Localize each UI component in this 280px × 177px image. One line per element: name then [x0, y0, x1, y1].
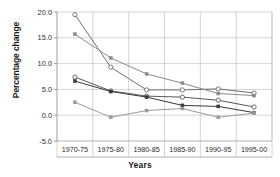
data-point-marker	[253, 94, 256, 97]
y-tick-label: 15.0	[38, 33, 52, 42]
data-point-marker	[109, 65, 113, 69]
data-point-marker	[73, 75, 77, 79]
data-point-marker	[181, 104, 184, 107]
axis-frame	[57, 12, 272, 157]
y-axis-ticks: 20.015.010.05.00.0-5.0	[38, 8, 57, 146]
y-tick-label: 20.0	[38, 8, 52, 17]
y-tick-label: 0.0	[42, 111, 52, 120]
data-point-marker	[73, 33, 76, 36]
y-tick-label: -5.0	[39, 137, 52, 146]
x-tick-label: 1985-90	[169, 145, 195, 154]
data-point-marker	[252, 105, 256, 109]
data-point-marker	[73, 12, 77, 16]
data-point-marker	[217, 116, 220, 119]
y-tick-label: 5.0	[42, 85, 52, 94]
data-point-marker	[109, 56, 112, 59]
x-tick-label: 1970-75	[62, 145, 88, 154]
data-point-marker	[216, 87, 220, 91]
x-tick-label: 1980-85	[133, 145, 159, 154]
data-point-marker	[145, 109, 148, 112]
data-point-marker	[109, 116, 112, 119]
data-point-marker	[145, 72, 148, 75]
data-point-marker	[216, 98, 220, 102]
data-point-marker	[253, 112, 256, 115]
data-point-marker	[73, 101, 76, 104]
data-point-marker	[180, 88, 184, 92]
data-point-marker	[145, 96, 148, 99]
data-point-marker	[181, 82, 184, 85]
data-point-marker	[181, 107, 184, 110]
x-axis-title: Years	[0, 160, 280, 170]
data-point-marker	[109, 90, 112, 93]
plot-area: 20.015.010.05.00.0-5.0 1970-751975-80198…	[0, 0, 280, 177]
x-tick-label: 1990-95	[205, 145, 231, 154]
data-point-marker	[144, 88, 148, 92]
data-point-marker	[180, 95, 184, 99]
data-point-marker	[217, 105, 220, 108]
data-point-marker	[217, 92, 220, 95]
y-tick-label: 10.0	[38, 59, 52, 68]
x-tick-label: 1975-80	[98, 145, 124, 154]
percentage-change-line-chart: Percentage change 20.015.010.05.00.0-5.0…	[0, 0, 280, 177]
data-point-marker	[73, 80, 76, 83]
x-tick-label: 1995-00	[241, 145, 267, 154]
